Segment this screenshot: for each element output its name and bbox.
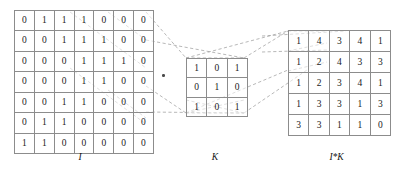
cell: 1 [94, 31, 114, 51]
cell: 1 [94, 72, 114, 92]
cell: 2 [309, 73, 329, 94]
caption-output-matrix: I*K [288, 152, 385, 162]
cell: 1 [54, 92, 74, 112]
cell: 1 [114, 51, 134, 71]
cell: 0 [114, 113, 134, 133]
focus-point-marker [162, 74, 165, 77]
cell: 0 [134, 113, 154, 133]
matrix-row: 1 4 3 4 1 [289, 31, 391, 52]
cell: 0 [94, 92, 114, 112]
cell: 1 [34, 133, 54, 153]
matrix-row: 1 2 3 4 1 [289, 73, 391, 94]
cell: 1 [289, 73, 309, 94]
cell: 0 [187, 78, 207, 97]
cell: 0 [134, 11, 154, 31]
cell: 0 [15, 92, 35, 112]
cell: 0 [207, 97, 227, 116]
matrix-row: 1 0 1 [187, 59, 248, 78]
frustum-I-to-K-upper [146, 40, 244, 58]
cell: 0 [94, 133, 114, 153]
cell: 0 [15, 11, 35, 31]
cell: 0 [34, 31, 54, 51]
cell: 0 [114, 72, 134, 92]
cell: 0 [114, 31, 134, 51]
matrix-row: 1 0 1 [187, 97, 248, 116]
matrix-row: 0 0 1 1 1 0 0 [15, 31, 154, 51]
matrix-row: 0 1 1 0 0 0 0 [15, 113, 154, 133]
matrix-row: 0 0 1 1 0 0 0 [15, 92, 154, 112]
cell: 2 [309, 52, 329, 73]
cell: 0 [370, 115, 390, 136]
cell: 0 [34, 72, 54, 92]
cell: 0 [74, 133, 94, 153]
matrix-row: 1 3 3 1 3 [289, 94, 391, 115]
cell: 1 [370, 31, 390, 52]
cell: 0 [134, 92, 154, 112]
cell: 3 [370, 52, 390, 73]
caption-kernel-matrix: K [186, 152, 244, 162]
cell: 1 [289, 94, 309, 115]
matrix-row: 3 3 1 1 0 [289, 115, 391, 136]
cell: 1 [94, 51, 114, 71]
cell: 3 [309, 94, 329, 115]
cell: 1 [74, 31, 94, 51]
cell: 1 [15, 133, 35, 153]
cell: 4 [329, 52, 349, 73]
cell: 0 [134, 31, 154, 51]
caption-input-matrix: I [14, 152, 146, 162]
cell: 0 [34, 92, 54, 112]
matrix-row: 1 2 4 3 3 [289, 52, 391, 73]
cell: 0 [54, 72, 74, 92]
cell: 0 [114, 133, 134, 153]
cell: 0 [54, 51, 74, 71]
cell: 1 [74, 51, 94, 71]
cell: 3 [329, 31, 349, 52]
cell: 1 [54, 31, 74, 51]
cell: 1 [74, 92, 94, 112]
cell: 0 [54, 133, 74, 153]
cell: 1 [74, 72, 94, 92]
input-matrix-I: 0 1 1 1 0 0 0 0 0 1 1 1 0 0 0 0 0 1 [14, 10, 154, 154]
cell: 1 [370, 73, 390, 94]
cell: 0 [34, 51, 54, 71]
cell: 4 [309, 31, 329, 52]
cell: 1 [54, 11, 74, 31]
cell: 1 [227, 97, 247, 116]
cell: 1 [350, 94, 370, 115]
cell: 0 [94, 113, 114, 133]
cell: 1 [74, 11, 94, 31]
cell: 0 [15, 113, 35, 133]
matrix-row: 0 0 0 1 1 0 0 [15, 72, 154, 92]
cell: 3 [370, 94, 390, 115]
cell: 3 [329, 73, 349, 94]
cell: 0 [74, 113, 94, 133]
cell: 0 [15, 51, 35, 71]
cell: 1 [289, 52, 309, 73]
cell: 1 [34, 11, 54, 31]
cell: 1 [227, 59, 247, 78]
cell: 0 [15, 72, 35, 92]
cell: 0 [227, 78, 247, 97]
cell: 0 [114, 92, 134, 112]
convolution-diagram: 0 1 1 1 0 0 0 0 0 1 1 1 0 0 0 0 0 1 [0, 0, 395, 177]
cell: 3 [350, 52, 370, 73]
cell: 1 [187, 59, 207, 78]
frustum-K-to-IK-top [186, 31, 288, 58]
cell: 1 [350, 115, 370, 136]
cell: 0 [134, 72, 154, 92]
cell: 1 [187, 97, 207, 116]
matrix-row: 0 0 0 1 1 1 0 [15, 51, 154, 71]
cell: 1 [289, 31, 309, 52]
cell: 3 [329, 94, 349, 115]
output-matrix-IK: 1 4 3 4 1 1 2 4 3 3 1 2 3 4 1 1 [288, 30, 391, 136]
cell: 0 [134, 51, 154, 71]
cell: 0 [15, 31, 35, 51]
cell: 0 [94, 11, 114, 31]
matrix-row: 1 1 0 0 0 0 0 [15, 133, 154, 153]
cell: 1 [54, 113, 74, 133]
cell: 1 [329, 115, 349, 136]
matrix-row: 0 1 0 [187, 78, 248, 97]
cell: 3 [309, 115, 329, 136]
cell: 0 [134, 133, 154, 153]
cell: 3 [289, 115, 309, 136]
